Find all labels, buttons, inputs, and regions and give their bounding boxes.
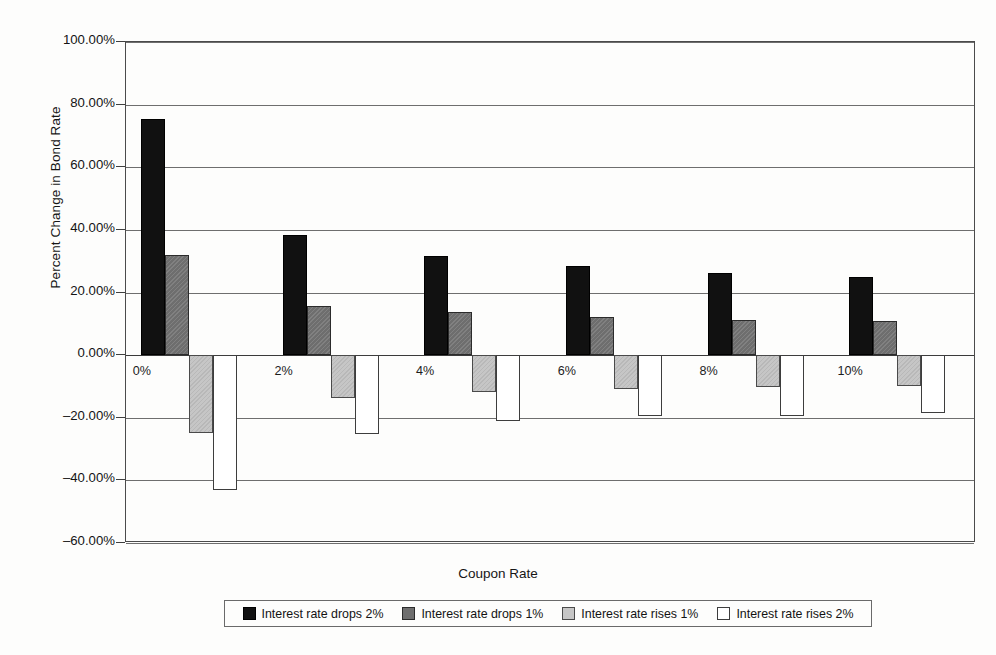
category-label: 8%: [674, 364, 744, 378]
legend-swatch-icon: [402, 607, 415, 620]
y-tick-label: –40.00%: [3, 470, 115, 485]
bar: [708, 273, 732, 355]
bar: [424, 256, 448, 356]
y-tick-label: –60.00%: [3, 533, 115, 548]
chart-legend: Interest rate drops 2%Interest rate drop…: [224, 600, 872, 627]
bar: [331, 355, 355, 398]
bar: [897, 355, 921, 386]
gridline: [126, 543, 974, 544]
legend-swatch-icon: [717, 607, 730, 620]
y-tick-mark: [116, 354, 125, 355]
y-tick-mark: [116, 41, 125, 42]
legend-swatch-icon: [243, 607, 256, 620]
bar: [283, 235, 307, 356]
bar: [614, 355, 638, 389]
y-tick-label: 100.00%: [3, 32, 115, 47]
category-label: 0%: [107, 364, 177, 378]
y-tick-mark: [116, 292, 125, 293]
bar: [780, 355, 804, 415]
zero-line: [126, 355, 974, 356]
y-tick-label: 0.00%: [3, 345, 115, 360]
legend-label: Interest rate rises 1%: [581, 607, 698, 621]
bar: [566, 266, 590, 355]
bar: [165, 255, 189, 355]
bar: [496, 355, 520, 421]
gridline: [126, 293, 974, 294]
gridline: [126, 167, 974, 168]
y-tick-label: 80.00%: [3, 95, 115, 110]
legend-item[interactable]: Interest rate rises 2%: [717, 607, 853, 621]
y-tick-label: 40.00%: [3, 220, 115, 235]
bar: [355, 355, 379, 434]
bar: [873, 321, 897, 355]
bar: [213, 355, 237, 490]
gridline: [126, 418, 974, 419]
bar: [638, 355, 662, 416]
gridline: [126, 480, 974, 481]
y-tick-label: 20.00%: [3, 283, 115, 298]
legend-label: Interest rate drops 1%: [421, 607, 543, 621]
category-label: 2%: [249, 364, 319, 378]
bar: [448, 312, 472, 355]
y-tick-mark: [116, 166, 125, 167]
category-label: 10%: [815, 364, 885, 378]
y-tick-mark: [116, 542, 125, 543]
bar: [189, 355, 213, 433]
bar: [756, 355, 780, 387]
legend-label: Interest rate drops 2%: [262, 607, 384, 621]
y-tick-label: 60.00%: [3, 157, 115, 172]
bar: [307, 306, 331, 355]
legend-item[interactable]: Interest rate drops 1%: [402, 607, 543, 621]
bar: [141, 119, 165, 355]
y-tick-mark: [116, 417, 125, 418]
bar-chart: Percent Change in Bond Rate 100.00%80.00…: [0, 0, 996, 655]
bar: [732, 320, 756, 355]
y-tick-mark: [116, 229, 125, 230]
y-axis-title: Percent Change in Bond Rate: [48, 48, 63, 348]
gridline: [126, 42, 974, 43]
gridline: [126, 230, 974, 231]
gridline: [126, 105, 974, 106]
category-label: 4%: [390, 364, 460, 378]
bar: [590, 317, 614, 356]
bar: [921, 355, 945, 413]
bar: [849, 277, 873, 355]
x-axis-title: Coupon Rate: [0, 566, 996, 581]
y-tick-label: –20.00%: [3, 408, 115, 423]
bar: [472, 355, 496, 392]
legend-label: Interest rate rises 2%: [736, 607, 853, 621]
legend-item[interactable]: Interest rate drops 2%: [243, 607, 384, 621]
category-label: 6%: [532, 364, 602, 378]
legend-swatch-icon: [562, 607, 575, 620]
legend-item[interactable]: Interest rate rises 1%: [562, 607, 698, 621]
y-tick-mark: [116, 479, 125, 480]
y-tick-mark: [116, 104, 125, 105]
plot-area: 0%2%4%6%8%10%: [125, 41, 975, 542]
